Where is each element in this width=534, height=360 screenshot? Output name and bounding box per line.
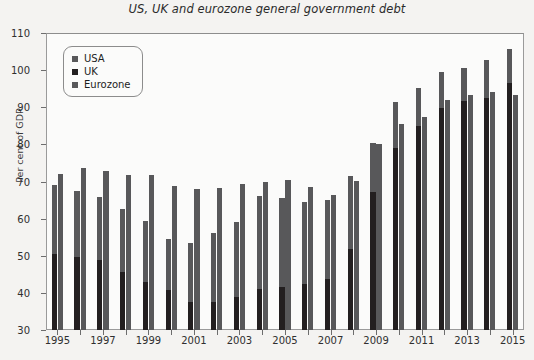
bar-eurozone bbox=[194, 189, 199, 330]
bar-uk bbox=[484, 98, 489, 330]
bar-eurozone bbox=[126, 175, 131, 330]
bar-eurozone bbox=[285, 180, 290, 330]
x-axis-tick-label: 2013 bbox=[454, 335, 479, 346]
bar-eurozone bbox=[172, 186, 177, 330]
legend-item-label: USA bbox=[84, 52, 105, 65]
y-axis-tick-mark bbox=[41, 293, 46, 294]
y-axis-tick-label: 80 bbox=[0, 139, 30, 150]
bar-uk bbox=[279, 287, 284, 330]
y-axis-tick-mark bbox=[41, 70, 46, 71]
x-axis-tick-mark bbox=[490, 330, 491, 335]
bar-uk bbox=[74, 257, 79, 330]
bar-eurozone bbox=[376, 144, 381, 330]
bar-eurozone bbox=[217, 188, 222, 330]
y-axis-tick-mark bbox=[41, 144, 46, 145]
legend-swatch-icon bbox=[72, 82, 78, 88]
chart-title: US, UK and eurozone general government d… bbox=[0, 2, 534, 16]
bar-eurozone bbox=[422, 117, 427, 330]
y-axis-tick-mark bbox=[41, 33, 46, 34]
bar-uk bbox=[461, 101, 466, 330]
bar-eurozone bbox=[58, 174, 63, 330]
x-axis-tick-mark bbox=[444, 330, 445, 335]
bar-uk bbox=[143, 282, 148, 330]
bar-uk bbox=[166, 290, 171, 330]
bar-uk bbox=[348, 249, 353, 330]
x-axis-tick-label: 2011 bbox=[409, 335, 434, 346]
x-axis-tick-label: 2015 bbox=[500, 335, 525, 346]
y-axis-tick-label: 50 bbox=[0, 250, 30, 261]
bar-uk bbox=[97, 260, 102, 330]
bar-eurozone bbox=[103, 171, 108, 330]
bar-uk bbox=[234, 297, 239, 330]
x-axis-tick-label: 1997 bbox=[90, 335, 115, 346]
y-axis-tick-label: 70 bbox=[0, 176, 30, 187]
x-axis-tick-label: 1995 bbox=[45, 335, 70, 346]
y-axis-tick-mark bbox=[41, 219, 46, 220]
bar-eurozone bbox=[399, 124, 404, 330]
chart-legend: USAUKEurozone bbox=[63, 46, 143, 97]
x-axis-tick-label: 2005 bbox=[272, 335, 297, 346]
y-axis-tick-mark bbox=[41, 182, 46, 183]
x-axis-tick-label: 2007 bbox=[318, 335, 343, 346]
x-axis-tick-label: 1999 bbox=[136, 335, 161, 346]
y-axis-tick-mark bbox=[41, 107, 46, 108]
x-axis-tick-label: 2003 bbox=[227, 335, 252, 346]
bar-eurozone bbox=[490, 92, 495, 330]
bar-eurozone bbox=[263, 182, 268, 331]
legend-item: Eurozone bbox=[72, 78, 131, 91]
bar-uk bbox=[188, 302, 193, 330]
bar-eurozone bbox=[308, 187, 313, 330]
x-axis-tick-mark bbox=[80, 330, 81, 335]
legend-swatch-icon bbox=[72, 69, 78, 75]
bar-uk bbox=[52, 254, 57, 330]
y-axis-tick-label: 40 bbox=[0, 287, 30, 298]
bar-uk bbox=[393, 148, 398, 330]
bar-uk bbox=[439, 108, 444, 330]
y-axis-tick-label: 90 bbox=[0, 102, 30, 113]
x-axis-tick-label: 2009 bbox=[363, 335, 388, 346]
bar-eurozone bbox=[81, 168, 86, 330]
y-axis-tick-label: 60 bbox=[0, 213, 30, 224]
bar-eurozone bbox=[240, 184, 245, 330]
bar-uk bbox=[325, 279, 330, 330]
bar-eurozone bbox=[331, 195, 336, 330]
x-axis-tick-mark bbox=[217, 330, 218, 335]
x-axis-tick-label: 2001 bbox=[181, 335, 206, 346]
y-axis-tick-label: 100 bbox=[0, 65, 30, 76]
legend-swatch-icon bbox=[72, 56, 78, 62]
y-axis-tick-label: 110 bbox=[0, 28, 30, 39]
plot-area: 30405060708090100110 1995199719992001200… bbox=[46, 33, 524, 330]
legend-item: UK bbox=[72, 65, 131, 78]
legend-item-label: Eurozone bbox=[84, 78, 131, 91]
bar-uk bbox=[120, 272, 125, 330]
bar-uk bbox=[211, 302, 216, 330]
x-axis-tick-mark bbox=[126, 330, 127, 335]
legend-item-label: UK bbox=[84, 65, 98, 78]
y-axis-tick-label: 30 bbox=[0, 325, 30, 336]
bar-eurozone bbox=[445, 100, 450, 330]
x-axis-tick-mark bbox=[308, 330, 309, 335]
bar-uk bbox=[370, 192, 375, 330]
bar-eurozone bbox=[468, 95, 473, 330]
y-axis-tick-mark bbox=[41, 256, 46, 257]
x-axis-tick-mark bbox=[262, 330, 263, 335]
bar-eurozone bbox=[513, 95, 518, 330]
x-axis-tick-mark bbox=[399, 330, 400, 335]
bar-uk bbox=[302, 284, 307, 330]
bar-uk bbox=[257, 289, 262, 330]
bar-uk bbox=[507, 83, 512, 330]
bar-eurozone bbox=[354, 181, 359, 330]
bar-eurozone bbox=[149, 175, 154, 330]
x-axis-tick-mark bbox=[353, 330, 354, 335]
legend-item: USA bbox=[72, 52, 131, 65]
chart-figure: US, UK and eurozone general government d… bbox=[0, 0, 534, 360]
bar-uk bbox=[416, 126, 421, 330]
y-axis-tick-mark bbox=[41, 330, 46, 331]
x-axis-tick-mark bbox=[171, 330, 172, 335]
